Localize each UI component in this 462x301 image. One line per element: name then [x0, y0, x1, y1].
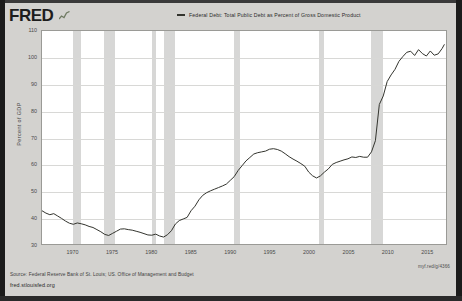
chart-legend[interactable]: Federal Debt: Total Public Debt as Perce…	[177, 12, 361, 18]
fred-logo[interactable]: FRED	[9, 7, 53, 24]
chart-card: FRED Federal Debt: Total Public Debt as …	[5, 3, 456, 296]
y-axis-tick-label: 110	[15, 27, 37, 33]
y-axis-tick-label: 80	[15, 108, 37, 114]
mini-line-chart-icon	[59, 11, 70, 20]
series-polyline	[42, 44, 444, 237]
x-axis-tick-label: 2000	[294, 249, 324, 255]
x-axis-tick-label: 1970	[58, 249, 88, 255]
x-axis-tick-label: 1985	[176, 249, 206, 255]
y-axis-tick-label: 40	[15, 215, 37, 221]
legend-series-label: Federal Debt: Total Public Debt as Perce…	[189, 12, 361, 18]
page-border-bottom	[0, 296, 462, 301]
chart-shortlink[interactable]: myf.red/g/4366	[418, 264, 450, 269]
chart-footer: Source: Federal Reserve Bank of St. Loui…	[5, 270, 456, 296]
series-line-federal-debt-pct-gdp	[42, 31, 446, 244]
y-axis-label: Percent of GDP	[16, 94, 22, 154]
source-note: Source: Federal Reserve Bank of St. Loui…	[10, 272, 194, 277]
legend-line-swatch	[177, 14, 185, 16]
fred-url[interactable]: fred.stlouisfed.org	[10, 282, 55, 288]
y-axis-tick-label: 70	[15, 135, 37, 141]
fred-chart-screenshot: FRED Federal Debt: Total Public Debt as …	[0, 0, 462, 301]
chart-header: FRED Federal Debt: Total Public Debt as …	[5, 3, 456, 27]
x-axis-tick-label: 1980	[136, 249, 166, 255]
y-axis-tick-label: 90	[15, 81, 37, 87]
x-axis-tick-label: 2010	[373, 249, 403, 255]
x-axis-tick-label: 2015	[412, 249, 442, 255]
page-border-right	[456, 0, 462, 301]
x-axis-tick-label: 1975	[97, 249, 127, 255]
x-axis-tick-label: 2005	[333, 249, 363, 255]
x-axis-tick-label: 1995	[255, 249, 285, 255]
plot-canvas[interactable]	[41, 30, 447, 245]
y-axis-tick-label: 30	[15, 242, 37, 248]
plot-area: Percent of GDP 11010090807060504030 1970…	[5, 25, 456, 271]
y-axis-tick-label: 50	[15, 188, 37, 194]
y-axis-tick-label: 100	[15, 54, 37, 60]
x-axis-tick-label: 1990	[215, 249, 245, 255]
y-axis-tick-label: 60	[15, 161, 37, 167]
